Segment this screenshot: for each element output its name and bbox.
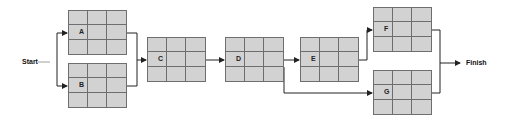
node-g: G xyxy=(373,70,432,115)
node-label: A xyxy=(79,28,84,35)
node-label: C xyxy=(158,55,163,62)
edge-fg-merge xyxy=(432,30,440,93)
start-label: Start xyxy=(22,58,38,65)
node-d: D xyxy=(225,37,284,82)
node-label: G xyxy=(384,88,389,95)
finish-label: Finish xyxy=(466,59,487,66)
node-f: F xyxy=(373,7,432,52)
node-label: E xyxy=(311,55,316,62)
node-label: D xyxy=(236,55,241,62)
node-label: B xyxy=(79,81,84,88)
node-b: B xyxy=(68,63,127,108)
node-e: E xyxy=(300,37,359,82)
node-label: F xyxy=(384,25,388,32)
edge-ab-merge xyxy=(127,33,137,86)
edge-e-f xyxy=(359,30,372,60)
node-a: A xyxy=(68,10,127,55)
node-c: C xyxy=(147,37,206,82)
